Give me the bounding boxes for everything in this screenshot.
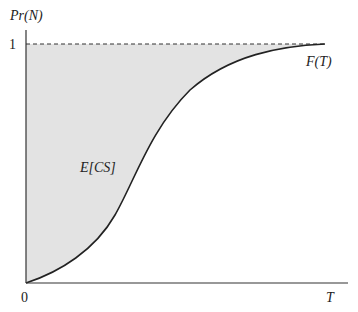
expected-cs-area <box>26 44 325 283</box>
chart: Pr(N) 1 0 T F(T) E[CS] <box>0 0 358 312</box>
area-label: E[CS] <box>79 160 116 175</box>
y-tick-one: 1 <box>9 37 16 52</box>
y-axis-label: Pr(N) <box>9 8 43 24</box>
x-tick-zero: 0 <box>21 290 28 305</box>
x-tick-T: T <box>326 290 335 305</box>
curve-label: F(T) <box>305 54 332 70</box>
